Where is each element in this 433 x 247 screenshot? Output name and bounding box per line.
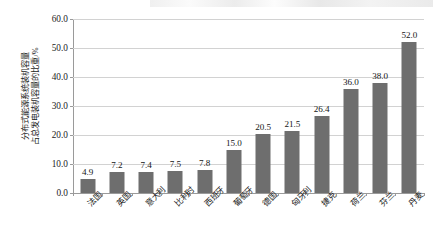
x-axis-tick-mark — [307, 193, 308, 196]
x-axis-tick-mark — [278, 193, 279, 196]
y-axis-tick-label: 50.0 — [22, 43, 68, 53]
x-axis-tick-mark — [73, 193, 74, 196]
bar[interactable] — [256, 134, 271, 193]
x-axis-tick-mark — [219, 193, 220, 196]
bar[interactable] — [285, 131, 300, 193]
bar[interactable] — [343, 89, 358, 193]
y-axis-tick-mark — [70, 19, 73, 20]
x-axis-tick-mark — [366, 193, 367, 196]
bar-value-label: 20.5 — [255, 122, 271, 132]
y-axis-tick-mark — [70, 77, 73, 78]
bar-slot: 7.2 — [102, 19, 131, 193]
x-axis-tick-mark — [190, 193, 191, 196]
x-axis-tick-mark — [249, 193, 250, 196]
bar-value-label: 21.5 — [284, 119, 300, 129]
x-axis-tick-mark — [424, 193, 425, 196]
bar-slot: 36.0 — [336, 19, 365, 193]
bar-value-label: 7.5 — [170, 159, 181, 169]
bar-value-label: 38.0 — [372, 71, 388, 81]
bar-slot: 52.0 — [395, 19, 424, 193]
bar-slot: 15.0 — [219, 19, 248, 193]
bar-value-label: 7.8 — [199, 158, 210, 168]
y-axis-tick-label: 0.0 — [22, 188, 68, 198]
bar-slot: 26.4 — [307, 19, 336, 193]
x-axis-tick-mark — [161, 193, 162, 196]
y-axis-tick-mark — [70, 48, 73, 49]
scan-artifact-strip — [150, 0, 433, 7]
bar-value-label: 52.0 — [401, 30, 417, 40]
bar-value-label: 26.4 — [314, 104, 330, 114]
bar-value-label: 36.0 — [343, 77, 359, 87]
y-axis-title-line1: 分布式能源系统装机容量 — [21, 52, 30, 140]
y-axis-tick-label: 20.0 — [22, 130, 68, 140]
x-axis-tick-mark — [132, 193, 133, 196]
bar-chart: 分布式能源系统装机容量 占总发电装机容量的比重/% 4.97.27.47.57.… — [0, 0, 433, 247]
bar-slot: 7.5 — [161, 19, 190, 193]
y-axis-tick-label: 10.0 — [22, 159, 68, 169]
bar-slot: 20.5 — [249, 19, 278, 193]
bar-value-label: 7.2 — [111, 160, 122, 170]
bars-layer: 4.97.27.47.57.815.020.521.526.436.038.05… — [73, 19, 424, 193]
bar-slot: 38.0 — [366, 19, 395, 193]
x-axis-tick-mark — [395, 193, 396, 196]
y-axis-tick-mark — [70, 106, 73, 107]
bar[interactable] — [402, 42, 417, 193]
bar-slot: 7.8 — [190, 19, 219, 193]
x-axis-tick-mark — [336, 193, 337, 196]
bar-slot: 7.4 — [132, 19, 161, 193]
bar-value-label: 7.4 — [140, 160, 151, 170]
bar[interactable] — [373, 83, 388, 193]
bar[interactable] — [314, 116, 329, 193]
bar-value-label: 4.9 — [82, 167, 93, 177]
y-axis-tick-mark — [70, 135, 73, 136]
y-axis-tick-label: 30.0 — [22, 101, 68, 111]
bar-slot: 4.9 — [73, 19, 102, 193]
y-axis-tick-label: 60.0 — [22, 14, 68, 24]
x-axis-tick-mark — [102, 193, 103, 196]
y-axis-tick-mark — [70, 164, 73, 165]
plot-area: 4.97.27.47.57.815.020.521.526.436.038.05… — [73, 19, 424, 193]
y-axis-tick-label: 40.0 — [22, 72, 68, 82]
bar[interactable] — [226, 150, 241, 194]
bar-value-label: 15.0 — [226, 138, 242, 148]
bar-slot: 21.5 — [278, 19, 307, 193]
